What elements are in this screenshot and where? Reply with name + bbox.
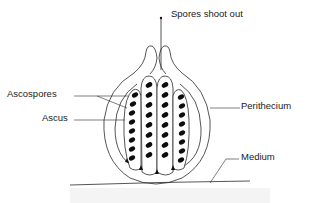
ascospores-leader-2 <box>97 96 127 108</box>
label-perithecium: Perithecium <box>241 100 291 111</box>
medium-leader <box>210 159 239 183</box>
neck-inner-left <box>150 58 157 74</box>
shadow-strip <box>70 188 270 203</box>
perithecium-diagram: Spores shoot out Ascospores Ascus Perith… <box>0 0 316 203</box>
neck-inner-right <box>159 58 166 74</box>
label-spores-shoot-out: Spores shoot out <box>171 8 243 19</box>
medium-surface <box>70 181 250 185</box>
label-ascospores: Ascospores <box>7 88 57 99</box>
label-ascus: Ascus <box>42 112 68 123</box>
ejected-spore-dot <box>160 17 162 19</box>
label-medium: Medium <box>241 151 275 162</box>
